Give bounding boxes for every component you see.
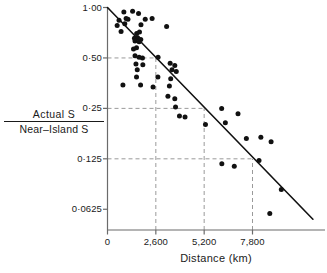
data-point	[172, 96, 177, 101]
x-tick-label-2: 5,200	[179, 236, 229, 247]
data-point	[150, 16, 155, 21]
data-point	[138, 82, 143, 87]
data-points-group	[115, 9, 284, 216]
data-point	[244, 136, 249, 141]
plot-canvas	[0, 0, 327, 273]
data-point	[156, 55, 161, 60]
y-axis-title: Actual S Near–Island S	[4, 108, 104, 135]
data-point	[168, 61, 173, 66]
y-axis-title-denominator: Near–Island S	[4, 122, 104, 135]
data-point	[170, 67, 175, 72]
data-point	[135, 67, 140, 72]
data-point	[279, 187, 284, 192]
data-point	[122, 21, 127, 26]
data-point	[119, 29, 124, 34]
x-tick-label-0: 0	[83, 236, 133, 247]
data-point	[173, 104, 178, 109]
data-point	[130, 9, 135, 14]
data-point	[257, 158, 262, 163]
data-point	[120, 82, 125, 87]
guide-lines-group	[108, 58, 253, 230]
data-point	[143, 17, 148, 22]
data-point	[137, 39, 142, 44]
data-point	[117, 18, 122, 23]
data-point	[133, 62, 138, 67]
scatter-plot-figure: 1·000·500·250·1250·0625 02,6005,2007,800…	[0, 0, 327, 273]
y-tick-label-4: 0·0625	[40, 203, 102, 214]
data-point	[183, 115, 188, 120]
data-point	[223, 120, 228, 125]
data-point	[167, 84, 172, 89]
data-point	[174, 69, 179, 74]
data-point	[155, 74, 160, 79]
data-point	[134, 45, 139, 50]
data-point	[203, 122, 208, 127]
y-tick-label-1: 0·50	[40, 52, 102, 63]
data-point	[165, 94, 170, 99]
y-axis-title-numerator: Actual S	[4, 108, 104, 121]
x-axis-title: Distance (km)	[107, 252, 325, 264]
data-point	[236, 111, 241, 116]
data-point	[137, 29, 142, 34]
x-tick-label-1: 2,600	[131, 236, 181, 247]
data-point	[258, 135, 263, 140]
data-point	[267, 211, 272, 216]
data-point	[121, 10, 126, 15]
data-point	[269, 139, 274, 144]
data-point	[125, 17, 130, 22]
data-point	[134, 74, 139, 79]
data-point	[115, 23, 120, 28]
data-point	[136, 11, 141, 16]
data-point	[219, 161, 224, 166]
y-tick-label-3: 0·125	[40, 153, 102, 164]
data-point	[164, 24, 169, 29]
x-tick-marks	[108, 230, 253, 235]
data-point	[219, 106, 224, 111]
y-tick-label-0: 1·00	[40, 2, 102, 13]
data-point	[151, 85, 156, 90]
data-point	[168, 76, 173, 81]
x-tick-label-3: 7,800	[228, 236, 278, 247]
data-point	[140, 62, 145, 67]
data-point	[140, 55, 145, 60]
data-point	[177, 114, 182, 119]
data-point	[138, 22, 143, 27]
data-point	[172, 63, 177, 68]
data-point	[232, 164, 237, 169]
